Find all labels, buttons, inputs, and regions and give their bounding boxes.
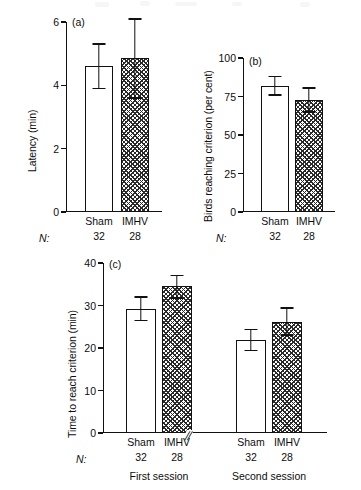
group-label: First session xyxy=(130,471,189,482)
panel-a-y-axis xyxy=(66,22,67,212)
category-label: IMHV xyxy=(164,437,190,448)
bar xyxy=(126,309,156,433)
error-bar xyxy=(176,276,177,298)
category-label: IMHV xyxy=(122,216,148,227)
y-tick xyxy=(238,96,243,97)
panel-b-tag: (b) xyxy=(249,55,262,67)
error-bar xyxy=(134,19,135,98)
error-bar-cap xyxy=(281,334,294,335)
y-tick-label: 100 xyxy=(218,53,236,64)
y-tick xyxy=(61,148,66,149)
error-bar xyxy=(98,44,99,88)
y-tick-label: 30 xyxy=(84,300,96,311)
y-tick-label: 50 xyxy=(224,130,236,141)
error-bar-cap xyxy=(129,18,142,19)
y-tick xyxy=(98,262,103,263)
category-label: Sham xyxy=(261,216,288,227)
category-label: IMHV xyxy=(274,437,300,448)
error-bar-cap xyxy=(135,320,148,321)
error-bar xyxy=(274,76,275,94)
y-tick xyxy=(98,305,103,306)
bar xyxy=(272,322,302,433)
y-tick-label: 10 xyxy=(84,385,96,396)
y-tick xyxy=(61,211,66,212)
panel-a-tag: (a) xyxy=(72,16,85,28)
error-bar-cap xyxy=(171,275,184,276)
error-bar xyxy=(250,329,251,350)
y-tick-label: 20 xyxy=(84,343,96,354)
error-bar-cap xyxy=(171,297,184,298)
y-tick xyxy=(238,57,243,58)
error-bar-cap xyxy=(135,296,148,297)
y-tick xyxy=(98,347,103,348)
panel-b-y-axis xyxy=(243,58,244,212)
error-bar-cap xyxy=(93,88,106,89)
bar xyxy=(162,286,192,433)
error-bar-cap xyxy=(303,87,316,88)
category-label: Sham xyxy=(85,216,112,227)
y-tick xyxy=(98,432,103,433)
error-bar-cap xyxy=(245,329,258,330)
error-bar xyxy=(308,88,309,112)
panel-a-y-axis-label: Latency (min) xyxy=(26,110,38,172)
y-tick-label: 4 xyxy=(53,80,59,91)
panel-b-n-label: N: xyxy=(216,233,227,244)
y-tick-label: 0 xyxy=(230,207,236,218)
n-value: 32 xyxy=(93,231,105,242)
panel-b: Birds reaching criterion (per cent) 0255… xyxy=(180,0,361,250)
panel-c-n-label: N: xyxy=(76,454,87,465)
category-label: Sham xyxy=(127,437,154,448)
y-tick-label: 2 xyxy=(53,143,59,154)
y-tick xyxy=(238,173,243,174)
y-tick xyxy=(238,134,243,135)
y-tick xyxy=(98,390,103,391)
error-bar-cap xyxy=(281,307,294,308)
error-bar-cap xyxy=(303,111,316,112)
bar xyxy=(295,100,323,212)
n-value: 28 xyxy=(171,452,183,463)
y-tick xyxy=(61,21,66,22)
n-value: 28 xyxy=(129,231,141,242)
panel-a: Latency (min) 0246 (a) N: Sham32IMHV28 xyxy=(0,0,180,250)
panel-c-plot-area: 010203040 xyxy=(103,263,323,433)
panel-b-plot-area: 0255075100 xyxy=(243,58,323,212)
error-bar-cap xyxy=(269,76,282,77)
group-label: Second session xyxy=(232,471,306,482)
panel-c-y-axis-label: Time to reach criterion (min) xyxy=(66,310,78,438)
error-bar-cap xyxy=(245,350,258,351)
error-bar-cap xyxy=(93,43,106,44)
y-tick-label: 75 xyxy=(224,91,236,102)
category-label: IMHV xyxy=(296,216,322,227)
panel-a-n-label: N: xyxy=(39,233,50,244)
n-value: 32 xyxy=(269,231,281,242)
error-bar-cap xyxy=(129,97,142,98)
panel-c-y-axis xyxy=(103,263,104,433)
panel-b-y-axis-label: Birds reaching criterion (per cent) xyxy=(202,70,214,222)
bar xyxy=(236,340,266,433)
panel-c: Time to reach criterion (min) 010203040 … xyxy=(0,250,361,490)
y-tick xyxy=(61,85,66,86)
y-tick-label: 6 xyxy=(53,17,59,28)
n-value: 32 xyxy=(245,452,257,463)
y-tick xyxy=(238,211,243,212)
error-bar xyxy=(286,308,287,335)
n-value: 32 xyxy=(135,452,147,463)
panel-c-tag: (c) xyxy=(109,258,121,270)
n-value: 28 xyxy=(281,452,293,463)
y-tick-label: 25 xyxy=(224,168,236,179)
y-tick-label: 0 xyxy=(90,428,96,439)
panel-a-plot-area: 0246 xyxy=(66,22,158,212)
category-label: Sham xyxy=(237,437,264,448)
error-bar xyxy=(140,297,141,321)
y-tick-label: 40 xyxy=(84,258,96,269)
y-tick-label: 0 xyxy=(53,207,59,218)
error-bar-cap xyxy=(269,94,282,95)
bar xyxy=(261,86,289,212)
figure-container: Latency (min) 0246 (a) N: Sham32IMHV28 B… xyxy=(0,0,361,490)
n-value: 28 xyxy=(303,231,315,242)
